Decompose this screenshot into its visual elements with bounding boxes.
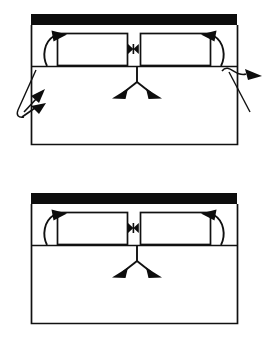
upper-panel: [17, 14, 262, 145]
lower-left-box: [58, 213, 128, 245]
upper-black-bar: [31, 14, 237, 25]
lower-split-arrow: [112, 245, 162, 278]
upper-left-box: [58, 34, 128, 66]
figure-root: [0, 0, 274, 338]
upper-right-box: [141, 34, 211, 66]
lower-black-bar: [31, 193, 237, 204]
diagram-canvas: [0, 0, 274, 338]
lower-right-box: [141, 213, 211, 245]
upper-bowtie-connector: [128, 44, 139, 54]
upper-right-leader-arrow: [222, 68, 262, 112]
upper-split-arrow: [112, 66, 162, 99]
lower-panel: [31, 193, 238, 324]
lower-bowtie-connector: [128, 223, 139, 233]
